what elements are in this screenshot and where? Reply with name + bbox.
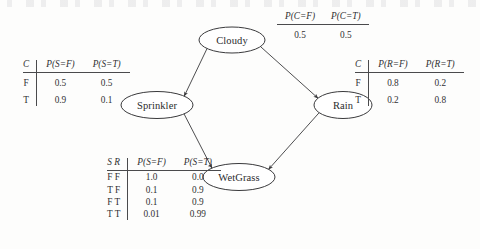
cell-value: 0.9 bbox=[175, 196, 221, 208]
cond-column-header: C bbox=[23, 60, 37, 73]
cell-value: 0.1 bbox=[128, 196, 175, 208]
cond-value: F F bbox=[107, 171, 128, 183]
cell-value: 1.0 bbox=[128, 171, 175, 183]
edge-layer bbox=[184, 47, 319, 170]
column-header: P(R=F) bbox=[369, 60, 417, 73]
table-row: T 0.2 0.8 bbox=[355, 90, 464, 106]
rain-cpt: C P(R=F) P(R=T) F 0.8 0.2 T 0.2 0.8 bbox=[355, 60, 464, 106]
column-header: P(C=F) bbox=[277, 12, 323, 25]
cond-value: T bbox=[355, 90, 369, 106]
table-row: F T 0.1 0.9 bbox=[107, 196, 221, 208]
cond-value: T T bbox=[107, 208, 128, 220]
cond-column-header: S R bbox=[107, 158, 128, 171]
cell-value: 0.8 bbox=[369, 73, 417, 89]
node-label-wetgrass: WetGrass bbox=[218, 172, 259, 183]
edge-cloudy-to-rain bbox=[260, 47, 317, 99]
cell-value: 0.8 bbox=[417, 90, 464, 106]
cloudy-cpt-table: P(C=F) P(C=T) 0.5 0.5 bbox=[277, 12, 369, 42]
cell-value: 0.01 bbox=[128, 208, 175, 220]
column-header: P(S=F) bbox=[128, 158, 175, 171]
column-header: P(S=T) bbox=[175, 158, 221, 171]
edge-cloudy-to-sprinkler bbox=[184, 49, 207, 97]
table-row: T F 0.1 0.9 bbox=[107, 184, 221, 196]
table-row: T T 0.01 0.99 bbox=[107, 208, 221, 220]
table-row: T 0.9 0.1 bbox=[23, 90, 130, 106]
cell-value: 0.5 bbox=[84, 73, 130, 89]
cond-value: F bbox=[355, 73, 369, 89]
node-label-sprinkler: Sprinkler bbox=[137, 100, 177, 111]
column-header: P(S=T) bbox=[84, 60, 130, 73]
cond-value: F bbox=[23, 73, 37, 89]
cell-value: 0.9 bbox=[175, 184, 221, 196]
sprinkler-cpt: C P(S=F) P(S=T) F 0.5 0.5 T 0.9 0.1 bbox=[23, 60, 130, 106]
cloudy-cpt: P(C=F) P(C=T) 0.5 0.5 bbox=[277, 12, 369, 42]
wetgrass-cpt: S R P(S=F) P(S=T) F F 1.0 0.0 T F 0.1 0.… bbox=[107, 158, 221, 220]
table-header-row: C P(R=F) P(R=T) bbox=[355, 60, 464, 73]
cond-column-header: C bbox=[355, 60, 369, 73]
node-label-rain: Rain bbox=[333, 100, 353, 111]
table-row: F 0.5 0.5 bbox=[23, 73, 130, 89]
cell-value: 0.2 bbox=[417, 73, 464, 89]
cell-value: 0.1 bbox=[84, 90, 130, 106]
table-header-row: S R P(S=F) P(S=T) bbox=[107, 158, 221, 171]
column-header: P(C=T) bbox=[323, 12, 369, 25]
cell-value: 0.1 bbox=[128, 184, 175, 196]
cell-value: 0.5 bbox=[37, 73, 84, 89]
table-header-row: P(C=F) P(C=T) bbox=[277, 12, 369, 25]
cell-value: 0.5 bbox=[277, 25, 323, 41]
table-header-row: C P(S=F) P(S=T) bbox=[23, 60, 130, 73]
column-header: P(S=F) bbox=[37, 60, 84, 73]
table-row: 0.5 0.5 bbox=[277, 25, 369, 41]
cell-value: 0.99 bbox=[175, 208, 221, 220]
table-row: F F 1.0 0.0 bbox=[107, 171, 221, 183]
column-header: P(R=T) bbox=[417, 60, 464, 73]
cell-value: 0.5 bbox=[323, 25, 369, 41]
sprinkler-cpt-table: C P(S=F) P(S=T) F 0.5 0.5 T 0.9 0.1 bbox=[23, 60, 130, 106]
cell-value: 0.9 bbox=[37, 90, 84, 106]
wetgrass-cpt-table: S R P(S=F) P(S=T) F F 1.0 0.0 T F 0.1 0.… bbox=[107, 158, 221, 220]
cond-value: F T bbox=[107, 196, 128, 208]
figure-canvas: CloudySprinklerRainWetGrass P(C=F) P(C=T… bbox=[0, 0, 480, 249]
table-row: F 0.8 0.2 bbox=[355, 73, 464, 89]
cell-value: 0.0 bbox=[175, 171, 221, 183]
cond-value: T F bbox=[107, 184, 128, 196]
cell-value: 0.2 bbox=[369, 90, 417, 106]
node-label-cloudy: Cloudy bbox=[216, 35, 248, 46]
rain-cpt-table: C P(R=F) P(R=T) F 0.8 0.2 T 0.2 0.8 bbox=[355, 60, 464, 106]
cond-value: T bbox=[23, 90, 37, 106]
edge-rain-to-wetgrass bbox=[269, 113, 320, 170]
